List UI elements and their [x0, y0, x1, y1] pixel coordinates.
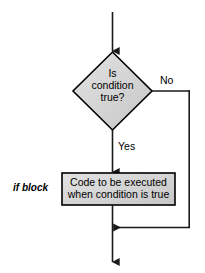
- decision-diamond: [73, 52, 152, 130]
- if-block-annotation: if block: [13, 182, 48, 193]
- process-box: [62, 173, 175, 205]
- diagram-canvas: [0, 0, 205, 273]
- flowchart-diagram: Is condition true? Code to be executed w…: [0, 0, 205, 273]
- edge-label-no: No: [160, 74, 173, 86]
- edge-label-yes: Yes: [118, 140, 135, 152]
